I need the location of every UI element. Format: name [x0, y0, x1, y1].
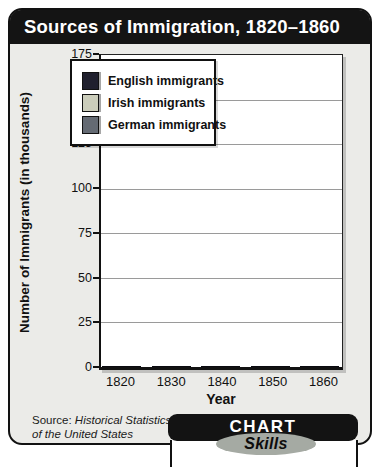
bar-english-1830	[152, 366, 165, 367]
bar-german-1830	[178, 366, 191, 367]
y-tick-label: 25	[52, 315, 92, 329]
y-tick-label: 0	[52, 360, 92, 374]
bar-german-1820	[128, 366, 141, 367]
german-swatch-icon	[82, 116, 99, 134]
y-axis-title: Number of Immigrants (in thousands)	[14, 54, 34, 370]
bar-group-1820	[102, 366, 143, 367]
bar-german-1860	[326, 366, 339, 367]
chart-card: Sources of Immigration, 1820–1860 Number…	[8, 8, 372, 445]
y-tick-mark	[93, 187, 99, 189]
bar-german-1850	[277, 366, 290, 367]
y-tick-label: 100	[52, 181, 92, 195]
source-note: Source: Historical Statistics of the Uni…	[32, 414, 171, 441]
legend-item-english: English immigrants	[82, 72, 206, 90]
legend: English immigrants Irish immigrants Germ…	[70, 59, 216, 146]
bar-irish-1850	[264, 366, 277, 367]
y-tick-mark	[93, 53, 99, 55]
bar-english-1820	[102, 366, 115, 367]
y-tick-mark	[93, 366, 99, 368]
x-axis-title: Year	[99, 391, 343, 407]
chart-title: Sources of Immigration, 1820–1860	[10, 10, 370, 44]
badge-skills-label: Skills	[244, 435, 288, 453]
bar-english-1850	[251, 366, 264, 367]
legend-item-irish: Irish immigrants	[82, 94, 206, 112]
bar-group-1840	[201, 366, 242, 367]
x-tick-label: 1840	[202, 374, 243, 389]
y-tick-label: 50	[52, 271, 92, 285]
x-tick-label: 1860	[303, 374, 344, 389]
bar-group-1830	[152, 366, 193, 367]
x-tick-label: 1830	[151, 374, 192, 389]
bar-irish-1830	[165, 366, 178, 367]
x-tick-label: 1820	[100, 374, 141, 389]
bar-group-1850	[251, 366, 292, 367]
bar-german-1840	[227, 366, 240, 367]
x-tick-label: 1850	[252, 374, 293, 389]
legend-item-german: German immigrants	[82, 116, 206, 134]
bar-english-1840	[201, 366, 214, 367]
skills-ellipse: Skills	[216, 433, 316, 455]
y-tick-label: 75	[52, 226, 92, 240]
x-axis-labels: 1820 1830 1840 1850 1860	[99, 374, 345, 389]
irish-swatch-icon	[82, 94, 99, 112]
english-swatch-icon	[82, 72, 99, 90]
bar-group-1860	[300, 366, 341, 367]
y-tick-mark	[93, 232, 99, 234]
bar-irish-1820	[115, 366, 128, 367]
bar-irish-1860	[313, 366, 326, 367]
bar-irish-1840	[214, 366, 227, 367]
y-tick-mark	[93, 321, 99, 323]
bar-english-1860	[300, 366, 313, 367]
y-tick-mark	[93, 277, 99, 279]
